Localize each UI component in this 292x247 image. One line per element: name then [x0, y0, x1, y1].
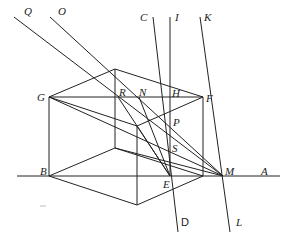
- edge-bottom-left-front: [49, 176, 137, 205]
- edge-top-left-front: [49, 97, 137, 126]
- label-F: F: [206, 93, 213, 104]
- edge-bottom-right-back: [115, 148, 203, 176]
- label-S: S: [172, 143, 178, 154]
- diagram-lines: [0, 0, 292, 247]
- label-I: I: [175, 12, 179, 23]
- label-D: D: [181, 217, 189, 228]
- label-Q: Q: [24, 6, 32, 17]
- line-GM: [49, 97, 223, 176]
- line-KL: [200, 17, 230, 232]
- edge-top-right-back: [115, 69, 203, 97]
- label-L: L: [236, 217, 242, 228]
- label-P: P: [173, 117, 180, 128]
- label-O: O: [58, 6, 66, 17]
- edge-bottom-right-front: [137, 176, 203, 205]
- label-H: H: [172, 88, 180, 99]
- edge-bottom-left-back: [49, 148, 115, 176]
- label-N: N: [139, 87, 146, 98]
- label-M: M: [225, 166, 234, 177]
- label-K: K: [204, 12, 211, 23]
- label-B: B: [40, 166, 47, 177]
- edge-top-left-back: [49, 69, 115, 97]
- label-E: E: [163, 179, 170, 190]
- geometry-diagram: Q O C I K G R N H F P S B E M A D L: [0, 0, 292, 247]
- label-A: A: [261, 166, 268, 177]
- label-G: G: [37, 92, 45, 103]
- label-C: C: [140, 12, 147, 23]
- label-R: R: [119, 87, 126, 98]
